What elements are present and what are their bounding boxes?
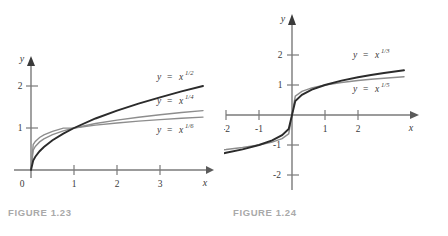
curve-label-x-pow-1-5-base: x [374, 84, 380, 94]
y-axis-label: y [280, 13, 286, 24]
curve-label-x-pow-1-6: y = x 1/6 [156, 122, 194, 135]
figure-1-23-panel: 1 2 3 1 2 0 x y y = x 1/2 [0, 0, 224, 236]
x-tick-label-3: 3 [158, 179, 163, 189]
curve-label-x-pow-1-3-exp: 1/3 [381, 47, 390, 54]
y-axis-ticks [26, 86, 38, 128]
y-axis-label: y [19, 53, 25, 64]
y-axis-arrowhead [288, 14, 296, 25]
x-tick-label-neg2: -2 [224, 124, 230, 134]
curve-x-pow-1-6 [31, 117, 203, 170]
x-tick-label-2: 2 [356, 124, 361, 134]
x-tick-label-2: 2 [115, 179, 120, 189]
y-tick-label-1: 1 [18, 123, 23, 133]
curve-label-x-pow-1-5-eq: = [363, 84, 368, 94]
curve-label-x-pow-1-4-y: y [156, 96, 162, 106]
x-axis-arrowhead [206, 166, 214, 174]
figure-1-24-panel: -2 -1 1 2 1 2 -1 -2 x y y = x 1/3 [224, 0, 448, 236]
curve-x-pow-1-4 [31, 111, 203, 170]
y-tick-label-2: 2 [18, 81, 23, 91]
curve-label-x-pow-1-3-base: x [374, 50, 380, 60]
x-axis [226, 111, 419, 119]
curve-label-x-pow-1-6-exp: 1/6 [185, 122, 194, 129]
curve-label-x-pow-1-3-y: y [352, 50, 358, 60]
curve-label-x-pow-1-2-base: x [178, 72, 184, 82]
curve-label-x-pow-1-4: y = x 1/4 [156, 93, 194, 106]
x-axis [14, 166, 214, 174]
curve-label-x-pow-1-4-exp: 1/4 [185, 93, 194, 100]
y-tick-label-2: 2 [278, 50, 283, 60]
x-tick-label-1: 1 [323, 124, 328, 134]
y-tick-label-neg2: -2 [273, 170, 281, 180]
curve-label-x-pow-1-2-exp: 1/2 [185, 69, 194, 76]
curve-label-x-pow-1-4-base: x [178, 96, 184, 106]
curve-label-x-pow-1-2: y = x 1/2 [156, 69, 194, 82]
x-axis-arrowhead [410, 111, 419, 119]
curve-label-x-pow-1-4-eq: = [167, 96, 172, 106]
curve-x-pow-1-2 [31, 86, 203, 170]
x-tick-label-neg1: -1 [255, 124, 263, 134]
curve-label-x-pow-1-6-eq: = [167, 125, 172, 135]
y-tick-label-1: 1 [278, 80, 283, 90]
curve-label-x-pow-1-5-exp: 1/5 [381, 81, 390, 88]
figure-1-23-caption: FIGURE 1.23 [8, 207, 72, 218]
curve-label-x-pow-1-2-eq: = [167, 72, 172, 82]
curve-label-x-pow-1-2-y: y [156, 72, 162, 82]
figure-page: 1 2 3 1 2 0 x y y = x 1/2 [0, 0, 448, 236]
curve-label-x-pow-1-3-eq: = [363, 50, 368, 60]
origin-label: 0 [20, 179, 25, 189]
x-tick-label-1: 1 [72, 179, 77, 189]
curve-label-x-pow-1-6-base: x [178, 125, 184, 135]
x-axis-label: x [202, 177, 208, 188]
x-axis-label: x [408, 122, 414, 133]
curve-label-x-pow-1-5: y = x 1/5 [352, 81, 390, 94]
figure-1-23-plot: 1 2 3 1 2 0 x y y = x 1/2 [0, 0, 224, 200]
curve-label-x-pow-1-5-y: y [352, 84, 358, 94]
figure-1-24-caption: FIGURE 1.24 [233, 207, 297, 218]
y-axis-arrowhead [27, 56, 35, 66]
curve-label-x-pow-1-6-y: y [156, 125, 162, 135]
figure-1-24-plot: -2 -1 1 2 1 2 -1 -2 x y y = x 1/3 [224, 0, 448, 200]
curve-label-x-pow-1-3: y = x 1/3 [352, 47, 390, 60]
